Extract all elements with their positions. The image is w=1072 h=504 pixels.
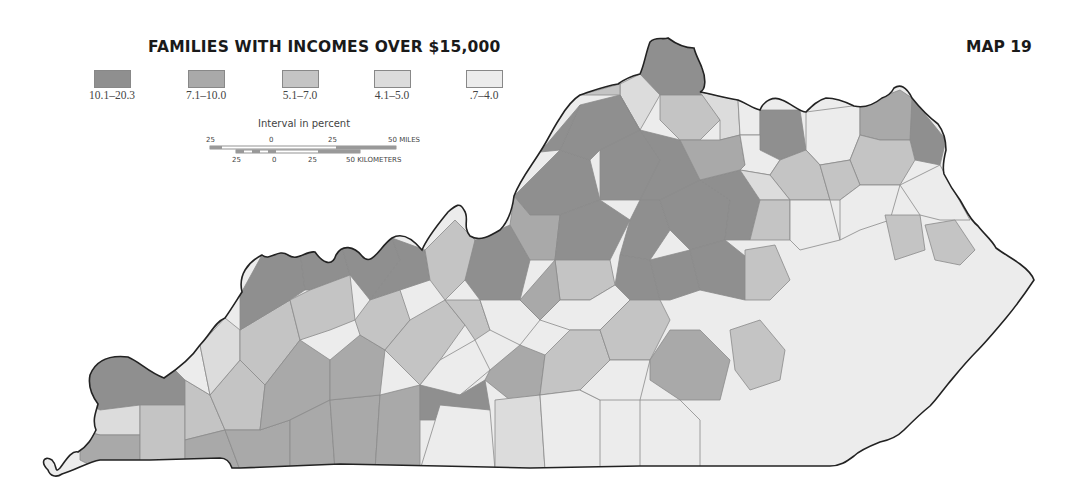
- kentucky-county-map: [0, 0, 1072, 504]
